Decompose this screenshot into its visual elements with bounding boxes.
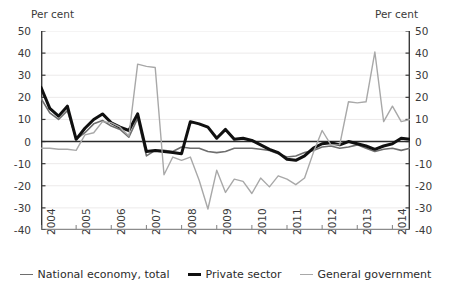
legend-label-national: National economy, total (38, 268, 170, 281)
y-tick-right-0: 0 (415, 136, 441, 148)
y-tick-right-30: 30 (415, 69, 441, 81)
y-axis-unit-label-left: Per cent (31, 8, 74, 20)
y-tick-left--20: -20 (5, 180, 31, 192)
legend-label-private: Private sector (206, 268, 282, 281)
y-tick-left-0: 0 (5, 136, 31, 148)
legend-swatch-private-icon (188, 273, 201, 276)
legend-label-government: General government (318, 268, 432, 281)
plot-area (41, 31, 410, 230)
legend-swatch-government-icon (300, 274, 313, 275)
y-tick-left-30: 30 (5, 69, 31, 81)
y-axis-unit-label-right: Per cent (375, 8, 418, 20)
y-tick-left--40: -40 (5, 224, 31, 236)
y-tick-right-50: 50 (415, 25, 441, 37)
y-tick-left-10: 10 (5, 113, 31, 125)
series-line-national-economy-total (41, 98, 410, 157)
y-tick-right-20: 20 (415, 91, 441, 103)
y-tick-right--40: -40 (415, 224, 441, 236)
y-tick-left-20: 20 (5, 91, 31, 103)
legend-item-national[interactable]: National economy, total (20, 268, 170, 281)
series-lines (41, 31, 410, 230)
y-tick-left-40: 40 (5, 47, 31, 59)
y-tick-right-10: 10 (415, 113, 441, 125)
y-tick-right--20: -20 (415, 180, 441, 192)
y-tick-left--30: -30 (5, 202, 31, 214)
legend-swatch-national-icon (20, 274, 33, 275)
y-tick-left-50: 50 (5, 25, 31, 37)
y-tick-left--10: -10 (5, 158, 31, 170)
chart-container: Per cent Per cent 5050404030302020101000… (0, 0, 451, 291)
y-tick-right-40: 40 (415, 47, 441, 59)
series-line-private-sector (41, 87, 410, 160)
legend-item-government[interactable]: General government (300, 268, 432, 281)
legend-item-private[interactable]: Private sector (188, 268, 282, 281)
y-tick-right--30: -30 (415, 202, 441, 214)
y-tick-right--10: -10 (415, 158, 441, 170)
chart-legend: National economy, totalPrivate sectorGen… (0, 262, 451, 286)
